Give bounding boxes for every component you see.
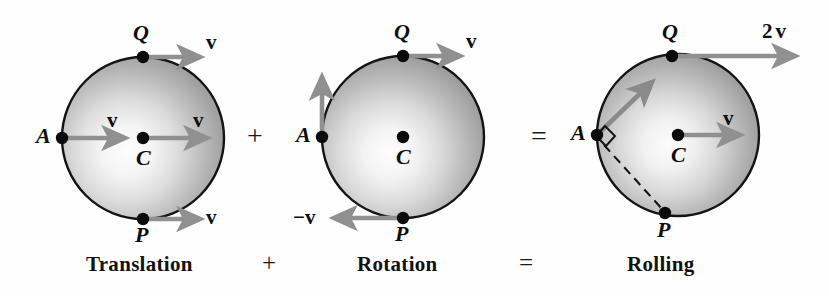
caption-row: Translation + Rotation = Rolling — [0, 252, 829, 292]
label-p-rolling: P — [657, 219, 670, 241]
point-dot-c-rotation — [397, 131, 409, 143]
operator-plus-middle: + — [247, 120, 263, 152]
label-v-q-rotation: v — [466, 31, 477, 52]
label-v-c-translation: v — [193, 110, 204, 131]
caption-operator-plus: + — [262, 249, 276, 277]
caption-translation: Translation — [86, 252, 193, 277]
label-v-p-translation: v — [206, 207, 217, 228]
caption-operator-equals: = — [519, 249, 533, 277]
label-c-rotation: C — [396, 146, 411, 168]
label-neg-v-p-rotation: −v — [293, 207, 315, 228]
label-q-rolling: Q — [662, 21, 678, 43]
label-a-rolling: A — [571, 122, 586, 144]
label-c-translation: C — [136, 147, 151, 169]
caption-rolling: Rolling — [627, 252, 694, 277]
point-dot-a-rolling — [591, 129, 603, 141]
label-q-rotation: Q — [394, 21, 410, 43]
panel-rotation — [316, 50, 484, 224]
label-c-rolling: C — [671, 144, 686, 166]
label-a-translation: A — [36, 125, 51, 147]
panel-rolling — [591, 50, 795, 219]
label-p-translation: P — [135, 224, 148, 246]
point-dot-c-rolling — [672, 129, 684, 141]
label-v-a-translation: v — [107, 110, 118, 131]
label-p-rotation: P — [395, 223, 408, 245]
label-a-rotation: A — [296, 124, 311, 146]
rolling-motion-figure: Q A C P v v v v Q A C P v −v Q A C P 2v … — [0, 0, 829, 296]
label-2v-rolling: v — [776, 19, 787, 43]
label-q-translation: Q — [133, 22, 149, 44]
panel-translation — [56, 51, 224, 225]
label-2v-prefix-rolling: 2 — [762, 19, 773, 43]
caption-rotation: Rotation — [357, 252, 438, 277]
point-dot-c-translation — [137, 132, 149, 144]
point-dot-a-translation — [56, 132, 68, 144]
point-dot-q-rolling — [666, 50, 678, 62]
point-dot-a-rotation — [316, 131, 328, 143]
point-dot-q-rotation — [397, 50, 409, 62]
point-dot-q-translation — [137, 51, 149, 63]
operator-equals-middle: = — [531, 120, 547, 152]
label-v-q-translation: v — [206, 32, 217, 53]
label-v-c-rolling: v — [723, 108, 734, 129]
